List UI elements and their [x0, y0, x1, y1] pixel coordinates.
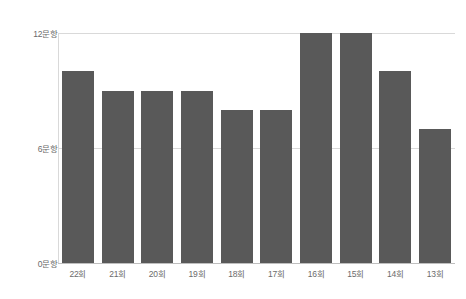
x-axis: 22회 21회 20회 19회 18회 17회 16회 15회 14회 13회 — [58, 267, 455, 279]
y-axis-tick-1: 6문항 — [0, 142, 58, 154]
bar-rect[interactable] — [141, 91, 173, 264]
bar-group: 10문항 — [58, 33, 98, 263]
bar-value-label: 9문항 — [187, 239, 207, 251]
bar-group: 8문항 — [257, 33, 297, 263]
bar-value-label: 8문항 — [227, 239, 247, 251]
x-axis-tick: 17회 — [257, 267, 297, 279]
x-axis-tick: 20회 — [137, 267, 177, 279]
bar-value-label: 7문항 — [425, 239, 445, 251]
bar-rect[interactable] — [102, 91, 134, 264]
bar-series: 10문항 9문항 9문항 9문항 8문항 8문항 — [58, 33, 455, 263]
bar-chart: 0문항 6문항 12문항 10문항 9문항 9문항 9문항 — [0, 0, 466, 299]
y-axis-tick-0: 0문항 — [0, 257, 58, 269]
bar-value-label: 8문항 — [266, 239, 286, 251]
axis-baseline — [58, 263, 455, 264]
bar-group: 9문항 — [98, 33, 138, 263]
x-axis-tick: 22회 — [58, 267, 98, 279]
bar-group: 9문항 — [137, 33, 177, 263]
bar-rect[interactable] — [379, 71, 411, 263]
bar-value-label: 12문항 — [343, 239, 368, 251]
bar-value-label: 9문항 — [147, 239, 167, 251]
bar-value-label: 9문항 — [107, 239, 127, 251]
x-axis-tick: 15회 — [336, 267, 376, 279]
bar-rect[interactable] — [181, 91, 213, 264]
bar-rect[interactable] — [300, 33, 332, 263]
bar-group: 7문항 — [415, 33, 455, 263]
bar-group: 8문항 — [217, 33, 257, 263]
bar-value-label: 10문항 — [383, 239, 408, 251]
y-axis-tick-2: 12문항 — [0, 27, 58, 39]
bar-value-label: 12문항 — [304, 239, 329, 251]
plot-area: 10문항 9문항 9문항 9문항 8문항 8문항 — [58, 33, 455, 263]
x-axis-tick: 16회 — [296, 267, 336, 279]
bar-group: 9문항 — [177, 33, 217, 263]
x-axis-tick: 14회 — [376, 267, 416, 279]
bar-group: 12문항 — [296, 33, 336, 263]
bar-value-label: 10문항 — [66, 239, 91, 251]
bar-rect[interactable] — [340, 33, 372, 263]
bar-group: 12문항 — [336, 33, 376, 263]
x-axis-tick: 13회 — [415, 267, 455, 279]
bar-rect[interactable] — [62, 71, 94, 263]
x-axis-tick: 18회 — [217, 267, 257, 279]
x-axis-tick: 21회 — [98, 267, 138, 279]
bar-group: 10문항 — [376, 33, 416, 263]
x-axis-tick: 19회 — [177, 267, 217, 279]
